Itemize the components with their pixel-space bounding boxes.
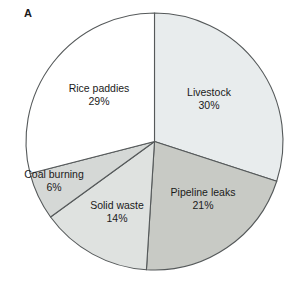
pie-slice-group bbox=[26, 13, 283, 270]
pie-chart bbox=[0, 0, 297, 285]
figure-panel: A Livestock30%Pipeline leaks21%Solid was… bbox=[0, 0, 297, 285]
